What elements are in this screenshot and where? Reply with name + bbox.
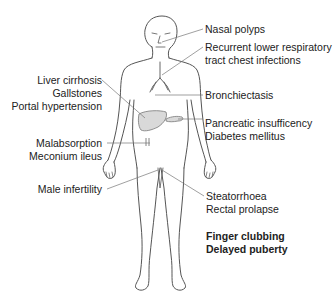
label-line: Diabetes mellitus — [205, 130, 312, 143]
label-pancreas: Pancreatic insufficency Diabetes mellitu… — [205, 117, 312, 143]
label-line: Nasal polyps — [205, 23, 265, 36]
label-general: Finger clubbing Delayed puberty — [206, 230, 288, 256]
label-line: Liver cirrhosis — [12, 74, 102, 87]
label-line: Rectal prolapse — [206, 203, 279, 216]
label-line: Bronchiectasis — [205, 89, 273, 102]
label-liver: Liver cirrhosis Gallstones Portal hypert… — [12, 74, 102, 113]
label-line: Portal hypertension — [12, 100, 102, 113]
label-line: Finger clubbing — [206, 230, 288, 243]
label-line: Recurrent lower respiratory — [205, 41, 332, 54]
label-nasal-polyps: Nasal polyps — [205, 23, 265, 36]
label-line: Meconium ileus — [29, 150, 102, 163]
label-line: Steatorrhoea — [206, 190, 279, 203]
head-outline — [145, 16, 177, 58]
label-bowel: Steatorrhoea Rectal prolapse — [206, 190, 279, 216]
label-line: Pancreatic insufficency — [205, 117, 312, 130]
intestine-marker — [146, 138, 149, 146]
label-line: tract chest infections — [205, 54, 332, 67]
label-line: Delayed puberty — [206, 243, 288, 256]
label-intestine: Malabsorption Meconium ileus — [29, 137, 102, 163]
label-line: Male infertility — [38, 183, 102, 196]
label-line: Malabsorption — [29, 137, 102, 150]
trachea — [150, 62, 170, 92]
label-line: Gallstones — [12, 87, 102, 100]
liver-organ — [138, 111, 166, 131]
label-male-infertility: Male infertility — [38, 183, 102, 196]
label-respiratory: Recurrent lower respiratory tract chest … — [205, 41, 332, 67]
label-bronchiectasis: Bronchiectasis — [205, 89, 273, 102]
